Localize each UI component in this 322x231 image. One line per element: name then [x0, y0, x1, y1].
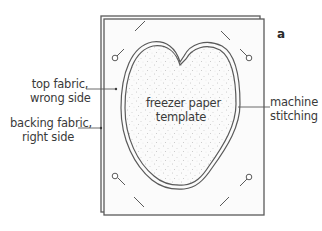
label-template-line2: template	[146, 110, 216, 124]
label-top-fabric-line2: wrong side	[30, 91, 90, 105]
label-top-fabric: top fabric, wrong side	[30, 77, 90, 105]
figure-letter: a	[277, 27, 285, 41]
label-backing-fabric-line1: backing fabric,	[10, 116, 86, 130]
label-backing-fabric-line2: right side	[10, 130, 86, 144]
label-stitching-line1: machine	[267, 95, 321, 109]
label-freezer-paper-template: freezer paper template	[146, 96, 216, 124]
label-top-fabric-line1: top fabric,	[30, 77, 90, 91]
label-template-line1: freezer paper	[146, 96, 216, 110]
label-backing-fabric: backing fabric, right side	[10, 116, 86, 144]
label-machine-stitching: machine stitching	[267, 95, 321, 123]
label-stitching-line2: stitching	[267, 109, 321, 123]
